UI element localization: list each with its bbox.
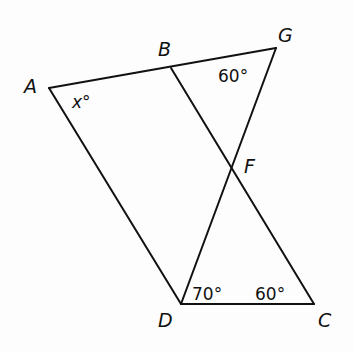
segment-DG	[181, 48, 276, 304]
angle-label-G: 60°	[218, 66, 248, 86]
geometry-diagram: A B G F D C x° 60° 70° 60°	[0, 0, 353, 353]
point-label-C: C	[318, 309, 332, 331]
segment-AD	[49, 88, 181, 304]
point-label-G: G	[278, 24, 293, 46]
angle-label-D: 70°	[192, 284, 222, 304]
angle-label-C: 60°	[255, 284, 285, 304]
angle-label-A: x°	[71, 92, 91, 112]
segment-BC	[171, 68, 314, 304]
diagram-svg: A B G F D C x° 60° 70° 60°	[0, 0, 353, 353]
point-label-D: D	[158, 309, 173, 331]
point-label-A: A	[22, 75, 37, 97]
point-label-F: F	[244, 155, 256, 177]
point-label-B: B	[158, 38, 171, 60]
